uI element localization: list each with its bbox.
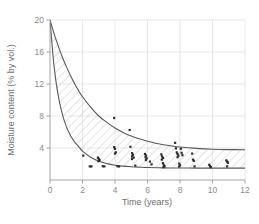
x-axis-title: Time (years) <box>122 197 172 207</box>
x-axis-ticks: 024681012 <box>48 180 250 195</box>
x-tick-label: 8 <box>178 185 183 195</box>
x-tick-label: 12 <box>240 185 250 195</box>
x-tick-label: 6 <box>145 185 150 195</box>
y-tick-label: 20 <box>35 15 45 25</box>
y-axis-ticks: 48121620 <box>35 15 50 153</box>
y-tick-label: 4 <box>39 143 44 153</box>
y-axis-title: Moisture content (% by vol.) <box>6 44 16 156</box>
y-tick-label: 16 <box>35 47 45 57</box>
x-tick-label: 4 <box>113 185 118 195</box>
y-tick-label: 8 <box>39 111 44 121</box>
x-tick-label: 2 <box>80 185 85 195</box>
moisture-content-chart: 024681012 48121620 Time (years) Moisture… <box>0 0 259 224</box>
chart-figure: 024681012 48121620 Time (years) Moisture… <box>0 0 259 224</box>
y-tick-label: 12 <box>35 79 45 89</box>
x-tick-label: 0 <box>48 185 53 195</box>
x-tick-label: 10 <box>208 185 218 195</box>
